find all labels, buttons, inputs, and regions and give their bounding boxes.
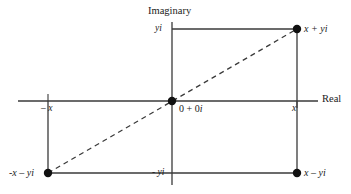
dot-negx-minus-yi [44, 169, 52, 177]
origin-real-part: 0 + 0 [179, 103, 200, 114]
tick-label-yi-positive: yi [155, 24, 162, 34]
tick-label-x-positive: x [292, 104, 296, 114]
point-label-origin: 0 + 0i [179, 104, 202, 114]
complex-plane-canvas [0, 0, 351, 194]
tick-label-yi-negative: - yi [152, 168, 164, 178]
dot-origin [168, 97, 176, 105]
complex-plane-figure: Imaginary Real yi - yi x – x x + yi x – … [0, 0, 351, 194]
point-label-x-minus-yi: x – yi [304, 168, 326, 178]
dot-x-minus-yi [293, 169, 301, 177]
dot-x-plus-yi [293, 25, 301, 33]
origin-imag-unit: i [200, 103, 203, 114]
point-label-x-plus-yi: x + yi [304, 24, 327, 34]
real-axis-label: Real [322, 94, 341, 105]
imaginary-axis-label: Imaginary [148, 6, 191, 17]
tick-label-x-negative: – x [41, 104, 52, 114]
point-label-negx-minus-yi: -x – yi [9, 168, 34, 178]
